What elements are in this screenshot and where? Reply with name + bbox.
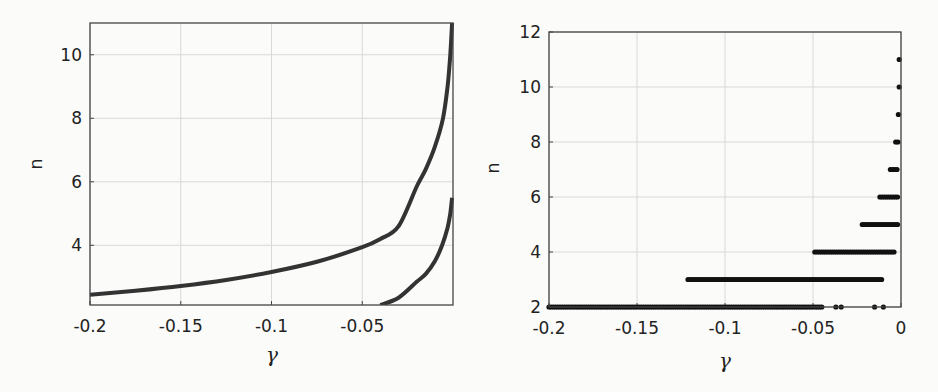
x-tick-label: 0 — [896, 318, 907, 338]
left-line-plot: -0.2-0.15-0.1-0.05 46810 γ n — [25, 23, 453, 367]
x-tick-label: -0.2 — [532, 318, 565, 338]
right-x-tick-labels: -0.2-0.15-0.1-0.050 — [532, 318, 906, 338]
x-tick-label: -0.15 — [615, 318, 659, 338]
marker — [895, 194, 900, 199]
y-tick-label: 8 — [530, 132, 541, 152]
marker — [896, 112, 901, 117]
x-tick-label: -0.05 — [791, 318, 835, 338]
curve-branch-2 — [380, 198, 452, 305]
y-tick-label: 10 — [60, 45, 82, 65]
left-y-axis-label: n — [25, 158, 46, 169]
y-tick-label: 4 — [71, 235, 82, 255]
left-y-tick-labels: 46810 — [60, 45, 82, 256]
y-tick-label: 6 — [530, 187, 541, 207]
y-tick-label: 6 — [71, 172, 82, 192]
x-tick-label: -0.1 — [255, 316, 288, 336]
marker — [879, 277, 884, 282]
figure: -0.2-0.15-0.1-0.05 46810 γ n -0.2-0.15-0… — [0, 0, 938, 392]
x-tick-label: -0.1 — [708, 318, 741, 338]
marker — [894, 167, 899, 172]
x-tick-label: -0.2 — [73, 316, 106, 336]
left-x-axis-label: γ — [266, 343, 278, 367]
right-scatter-plot: -0.2-0.15-0.1-0.050 24681012 γ n — [482, 22, 906, 373]
x-tick-label: -0.05 — [340, 316, 384, 336]
left-x-tick-labels: -0.2-0.15-0.1-0.05 — [73, 316, 384, 336]
y-tick-label: 8 — [71, 108, 82, 128]
right-grid — [549, 32, 901, 307]
left-grid — [90, 23, 453, 305]
right-y-axis-label: n — [482, 162, 503, 173]
marker — [895, 222, 900, 227]
y-tick-label: 12 — [519, 22, 541, 42]
marker — [891, 249, 896, 254]
right-y-tick-labels: 24681012 — [519, 22, 541, 317]
right-markers — [546, 57, 901, 310]
right-x-axis-label: γ — [719, 349, 731, 373]
x-tick-label: -0.15 — [159, 316, 203, 336]
y-tick-label: 10 — [519, 77, 541, 97]
y-tick-label: 2 — [530, 297, 541, 317]
marker — [895, 139, 900, 144]
y-tick-label: 4 — [530, 242, 541, 262]
